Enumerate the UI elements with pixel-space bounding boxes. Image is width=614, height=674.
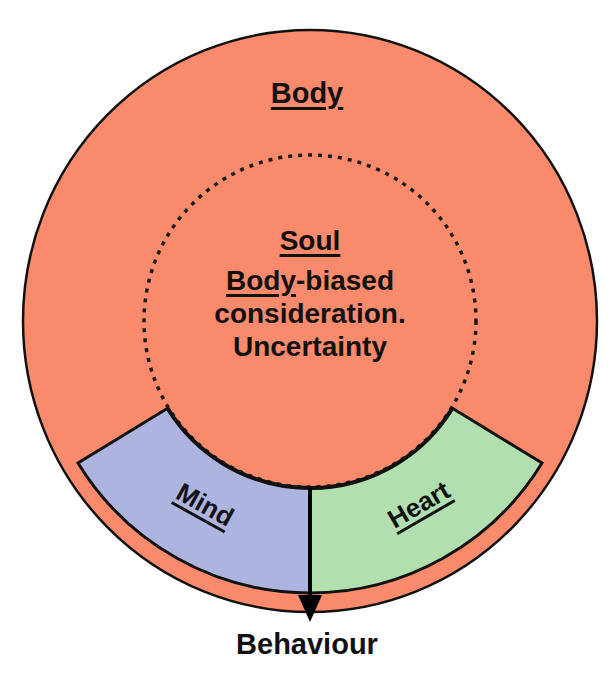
body-title: Body — [271, 77, 344, 109]
body-label: Body — [0, 77, 614, 110]
soul-title-text: Soul — [280, 225, 341, 256]
soul-block: Soul Body-biased consideration. Uncertai… — [160, 224, 460, 363]
soul-desc-line2: consideration. — [214, 298, 405, 329]
soul-description: Body-biased consideration. Uncertainty — [160, 264, 460, 363]
soul-desc-rest: -biased — [296, 265, 394, 296]
soul-desc-body-link: Body — [226, 265, 296, 296]
behaviour-label-text: Behaviour — [236, 628, 378, 660]
behaviour-label: Behaviour — [0, 628, 614, 661]
soul-desc-line3: Uncertainty — [233, 331, 387, 362]
soul-title: Soul — [160, 224, 460, 258]
